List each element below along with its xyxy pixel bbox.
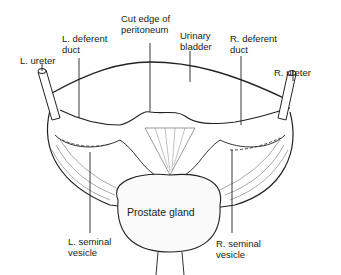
label-l-ureter: L. ureter (20, 55, 55, 66)
urethra (156, 252, 184, 275)
r-seminal-vesicle-shape (185, 135, 285, 175)
label-prostate-gland: Prostate gland (127, 207, 195, 218)
peritoneum-edge (60, 108, 290, 125)
label-r-ureter: R. ureter (274, 67, 311, 78)
label-urinary-bladder: Urinary bladder (180, 30, 212, 52)
anatomy-drawing (0, 0, 341, 275)
label-l-deferent-duct: L. deferent duct (62, 33, 107, 55)
bladder-outline (52, 62, 288, 100)
label-l-seminal-vesicle: L. seminal vesicle (68, 236, 111, 258)
label-cut-edge-peritoneum: Cut edge of peritoneum (121, 13, 170, 35)
label-r-deferent-duct: R. deferent duct (230, 33, 277, 55)
l-seminal-vesicle-shape (55, 135, 155, 175)
label-r-seminal-vesicle: R. seminal vesicle (216, 238, 261, 260)
